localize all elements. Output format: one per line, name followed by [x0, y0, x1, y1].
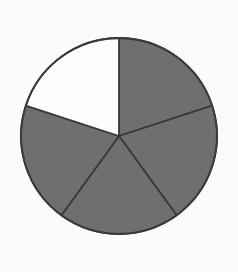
- pie-sector-group: [21, 38, 217, 234]
- fraction-circle-figure: [0, 0, 238, 272]
- pie-chart-svg: [0, 0, 238, 272]
